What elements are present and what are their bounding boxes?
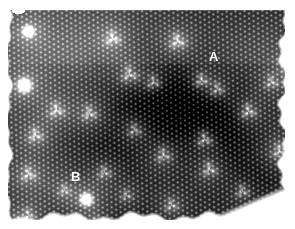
- paper-margin-top: [0, 0, 295, 9]
- paper-margin-right: [285, 0, 295, 229]
- stm-figure: A B: [0, 0, 295, 229]
- paper-margin-left: [0, 0, 8, 229]
- stm-scan-canvas: [8, 9, 285, 220]
- paper-margin-bottom: [0, 220, 295, 229]
- stm-scan-image: [8, 9, 285, 220]
